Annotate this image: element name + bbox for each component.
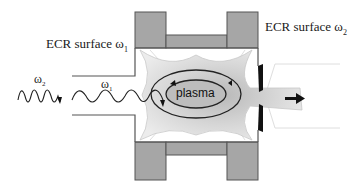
bottom-magnet-coils: [135, 142, 258, 180]
top-magnet-coils: [135, 12, 258, 48]
omega1-label: ω1: [101, 77, 112, 93]
wave-omega2-arrow: [57, 97, 62, 104]
ecr-ion-source-diagram: ECR surface ω1 ECR surface ω2 ω2 ω1 plas…: [0, 0, 363, 190]
ecr-surface-2-label: ECR surface ω2: [265, 19, 347, 37]
omega2-label: ω2: [34, 72, 45, 88]
ecr-surface-1-label: ECR surface ω1: [46, 36, 128, 54]
plasma-label: plasma: [176, 86, 215, 100]
wave-omega2: [18, 90, 60, 102]
